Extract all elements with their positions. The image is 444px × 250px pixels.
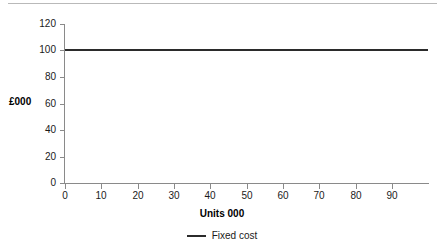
x-tick-label-60: 60: [263, 191, 303, 201]
x-tick-label-0: 0: [45, 191, 85, 201]
y-tick-label-20: 20: [16, 152, 56, 162]
y-tick-40: [60, 130, 65, 131]
y-tick-80: [60, 77, 65, 78]
x-tick-label-40: 40: [190, 191, 230, 201]
fixed-cost-chart-figure: 0 20 40 60 80 100 120 0 10 20 30 40 50 6…: [0, 0, 444, 250]
y-tick-20: [60, 157, 65, 158]
x-tick-label-20: 20: [118, 191, 158, 201]
x-tick-70: [319, 184, 320, 189]
y-tick-label-0: 0: [16, 178, 56, 188]
x-tick-label-70: 70: [299, 191, 339, 201]
y-tick-label-40: 40: [16, 125, 56, 135]
series-line-fixed-cost: [65, 49, 428, 51]
x-tick-label-50: 50: [227, 191, 267, 201]
x-tick-10: [101, 184, 102, 189]
x-tick-50: [247, 184, 248, 189]
y-axis-title: £000: [9, 97, 31, 107]
y-tick-label-100: 100: [16, 45, 56, 55]
x-tick-label-10: 10: [81, 191, 121, 201]
x-tick-label-80: 80: [336, 191, 376, 201]
y-tick-label-120: 120: [16, 19, 56, 29]
x-tick-30: [174, 184, 175, 189]
legend-label-fixed-cost: Fixed cost: [212, 230, 258, 241]
x-tick-60: [283, 184, 284, 189]
x-tick-40: [210, 184, 211, 189]
x-tick-0: [65, 184, 66, 189]
y-tick-60: [60, 104, 65, 105]
x-tick-80: [356, 184, 357, 189]
legend-swatch-fixed-cost: [187, 235, 206, 237]
x-tick-90: [392, 184, 393, 189]
x-tick-20: [138, 184, 139, 189]
chart-legend: Fixed cost: [0, 230, 444, 241]
y-tick-label-80: 80: [16, 72, 56, 82]
plot-area: 0 20 40 60 80 100 120 0 10 20 30 40 50 6…: [0, 0, 444, 250]
y-tick-120: [60, 24, 65, 25]
x-tick-label-90: 90: [372, 191, 412, 201]
x-tick-label-30: 30: [154, 191, 194, 201]
x-axis-title: Units 000: [0, 208, 444, 219]
